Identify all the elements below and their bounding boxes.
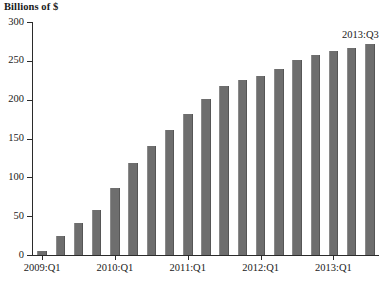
bar [56, 236, 65, 255]
y-axis-tick-label: 250 [8, 54, 24, 66]
x-axis-tick-mark [42, 256, 43, 260]
bar [329, 51, 338, 255]
bar [201, 99, 210, 255]
x-axis-tick-label: 2009:Q1 [24, 261, 61, 274]
bar [92, 210, 101, 255]
y-axis-tick: 0 [27, 255, 33, 256]
bar [365, 44, 374, 255]
bar-series [33, 22, 379, 255]
x-axis-tick-mark [261, 256, 262, 260]
x-axis-tick-mark [188, 256, 189, 260]
bar [147, 146, 156, 256]
y-axis-tick-label: 150 [8, 132, 24, 144]
y-axis-tick-label: 0 [19, 249, 24, 261]
bar [274, 69, 283, 255]
y-axis-tick-mark [27, 255, 33, 256]
x-axis-tick-mark [115, 256, 116, 260]
bar [256, 76, 265, 255]
y-axis-title: Billions of $ [4, 1, 58, 12]
x-axis-line [32, 255, 379, 256]
bar [165, 130, 174, 255]
bar [183, 114, 192, 255]
bar [74, 223, 83, 255]
bar [238, 80, 247, 255]
bar [110, 188, 119, 255]
y-axis-tick-label: 200 [8, 93, 24, 105]
y-axis-tick-label: 50 [14, 210, 25, 222]
bar [219, 86, 228, 255]
x-axis-tick-label: 2011:Q1 [170, 261, 206, 274]
y-axis-tick-label: 100 [8, 171, 24, 183]
bar [292, 60, 301, 255]
x-axis-tick-label: 2013:Q1 [315, 261, 352, 274]
bar [37, 251, 46, 255]
x-axis-tick-label: 2010:Q1 [97, 261, 134, 274]
x-axis-tick-label: 2012:Q1 [242, 261, 279, 274]
y-axis-tick-label: 300 [8, 16, 24, 28]
bar [347, 48, 356, 255]
x-axis-tick-mark [333, 256, 334, 260]
bar-chart: Billions of $ 050100150200250300 2009:Q1… [0, 0, 383, 282]
data-point-annotation: 2013:Q3 [342, 29, 379, 41]
bar [311, 55, 320, 255]
bar [128, 163, 137, 255]
